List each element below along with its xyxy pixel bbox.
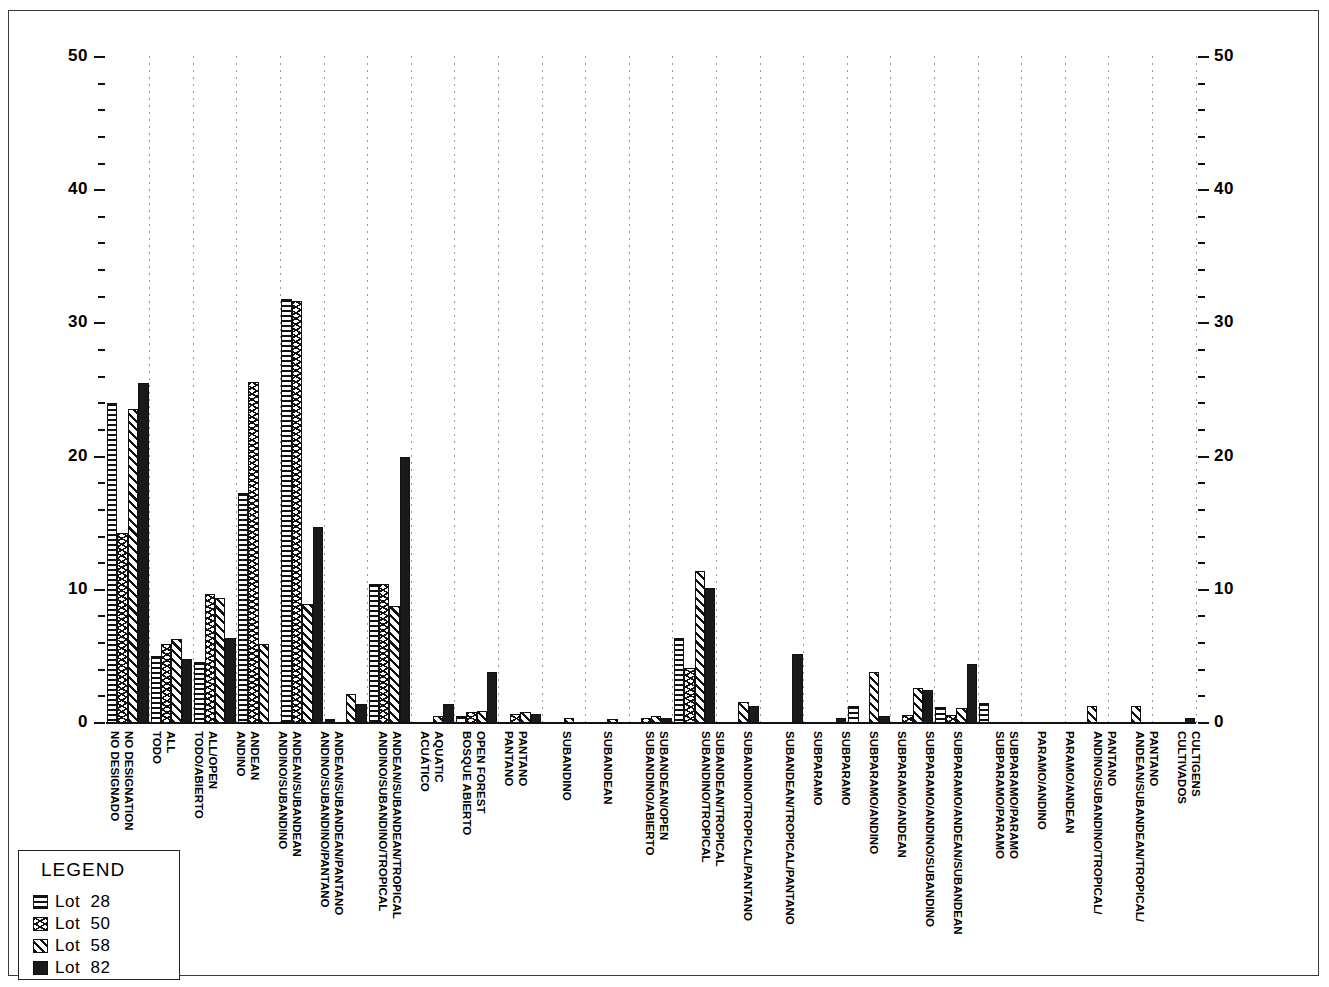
x-axis-label: PANTANO [1148, 731, 1160, 786]
x-axis-label: NO DESIGNATION [123, 731, 135, 830]
y-axis-tick [1198, 642, 1205, 644]
bar-lot-82 [923, 690, 933, 723]
bar-lot-58 [346, 694, 356, 723]
y-axis-tick [98, 509, 105, 511]
bar-lot-58 [1087, 706, 1097, 723]
x-axis-label: BOSQUE ABIERTO [461, 731, 473, 835]
y-axis-label: 40 [30, 179, 88, 199]
y-axis-tick [98, 376, 105, 378]
x-axis-label: SUBPARAMO/ANDEAN/SUBANDEAN [952, 731, 964, 935]
y-axis-tick [98, 669, 105, 671]
y-axis-tick [98, 562, 105, 564]
x-axis-label: ANDEAN/SUBANDEAN [291, 731, 303, 857]
bar-lot-50 [379, 584, 389, 723]
legend-entry: Lot 58 [33, 935, 111, 957]
y-axis-label: 50 [30, 46, 88, 66]
y-axis-tick [98, 695, 105, 697]
bar-lot-58 [1131, 706, 1141, 723]
plot-area [106, 56, 1196, 723]
x-axis-label: ALL/OPEN [207, 731, 219, 789]
y-axis-label: 50 [1214, 46, 1272, 66]
grid-separator [803, 56, 804, 723]
bar-lot-58 [302, 604, 312, 723]
x-axis-label: SUBANDEAN [602, 731, 614, 804]
x-axis-label: CULTIGENS [1190, 731, 1202, 797]
legend-label: Lot 58 [55, 936, 111, 956]
y-axis-tick [94, 56, 105, 58]
y-axis-label: 0 [1214, 712, 1272, 732]
grid-separator [760, 56, 761, 723]
x-axis-baseline [106, 722, 1196, 724]
x-axis-label: SUBANDEAN/TROPICAL [714, 731, 726, 866]
bar-lot-82 [400, 457, 410, 723]
x-axis-label: ALL [165, 731, 177, 753]
y-axis-tick [1198, 296, 1205, 298]
y-axis-tick [98, 83, 105, 85]
grid-separator [411, 56, 412, 723]
y-axis-tick [94, 722, 105, 724]
x-axis-label: ANDINO/SUBANDINO/TROPICAL/ [1092, 731, 1104, 914]
y-axis-tick [98, 349, 105, 351]
x-axis-label: SUBANDEAN/OPEN [658, 731, 670, 840]
bar-lot-82 [356, 704, 366, 723]
grid-separator [149, 56, 150, 723]
x-axis-label: PARAMO/ANDINO [1036, 731, 1048, 830]
y-axis-tick [1198, 109, 1205, 111]
y-axis-label: 30 [30, 312, 88, 332]
y-axis-tick [98, 482, 105, 484]
x-axis-label: ANDEAN [249, 731, 261, 780]
x-axis-label: ANDEAN/SUBANDEAN/TROPICAL [391, 731, 403, 919]
legend-swatch-lot-28-icon [33, 895, 48, 909]
y-axis-tick [98, 536, 105, 538]
y-axis-tick [1198, 722, 1209, 724]
bar-lot-28 [281, 299, 291, 723]
bar-lot-28 [238, 493, 248, 723]
bar-lot-50 [292, 301, 302, 723]
bar-lot-82 [313, 527, 323, 723]
grid-separator [716, 56, 717, 723]
y-axis-tick [94, 589, 105, 591]
grid-separator [542, 56, 543, 723]
y-axis-tick [1198, 402, 1205, 404]
y-axis-tick [1198, 615, 1205, 617]
y-axis-tick [1198, 509, 1205, 511]
x-axis-label: SUBPARAMO/ANDINO/SUBANDINO [924, 731, 936, 927]
x-axis-label: ANDINO/SUBANDINO/PANTANO [319, 731, 331, 908]
x-axis-label: ANDINO/SUBANDINO [277, 731, 289, 849]
bar-lot-82 [443, 704, 453, 723]
grid-separator [978, 56, 979, 723]
x-axis-label: SUBANDINO/TROPICAL/PANTANO [742, 731, 754, 921]
y-axis-tick [98, 136, 105, 138]
bar-lot-50 [205, 594, 215, 723]
x-axis-label: PANTANO [1106, 731, 1118, 786]
x-axis-label: SUBANDINO/ABIERTO [644, 731, 656, 855]
legend-swatch-lot-82-icon [33, 961, 48, 975]
y-axis-tick [98, 296, 105, 298]
x-axis-label: OPEN FOREST [475, 731, 487, 813]
grid-separator [193, 56, 194, 723]
x-axis-label: ACUÁTICO [419, 731, 431, 792]
x-axis-label: SUBPARAMO [812, 731, 824, 806]
bar-lot-82 [792, 654, 802, 723]
y-axis-tick [1198, 242, 1205, 244]
bar-lot-28 [194, 662, 204, 723]
bar-lot-28 [107, 403, 117, 723]
bar-lot-58 [128, 409, 138, 723]
bar-lot-58 [738, 702, 748, 723]
grid-separator [1108, 56, 1109, 723]
x-axis-label: ANDINO/SUBANDINO/TROPICAL [377, 731, 389, 911]
bar-lot-82 [225, 638, 235, 723]
y-axis-tick [1198, 136, 1205, 138]
y-axis-tick [98, 642, 105, 644]
bar-lot-50 [248, 382, 258, 723]
bar-lot-28 [369, 584, 379, 723]
x-axis-label: TODO [151, 731, 163, 764]
y-axis-tick [94, 322, 105, 324]
y-axis-tick [1198, 589, 1209, 591]
bar-lot-82 [967, 664, 977, 723]
x-axis-label: NO DESIGNADO [109, 731, 121, 821]
y-axis-tick [1198, 189, 1209, 191]
bar-lot-82 [487, 672, 497, 723]
bar-lot-28 [979, 703, 989, 723]
x-axis-label: PANTANO [503, 731, 515, 786]
